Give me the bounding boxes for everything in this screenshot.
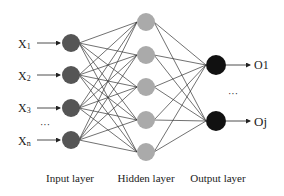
input-label-2: X2 (18, 69, 31, 83)
input-node-1 (62, 34, 80, 52)
hidden-node-1 (137, 13, 155, 31)
input-node-3 (62, 99, 80, 117)
input-node-4 (62, 131, 80, 149)
hidden-node-4 (137, 111, 155, 129)
input-label-1: X1 (18, 37, 31, 51)
neural-network-diagram: X1 X2 X3 ··· Xn O1 ··· Oj Input layer Hi… (0, 0, 284, 196)
input-labels: X1 X2 X3 ··· Xn (18, 37, 50, 148)
input-label-3: X3 (18, 101, 31, 115)
output-layer-label: Output layer (190, 172, 246, 184)
input-label-n: Xn (18, 134, 31, 148)
output-label-j: Oj (254, 114, 267, 129)
hidden-node-5 (137, 143, 155, 161)
hidden-layer-label: Hidden layer (117, 172, 174, 184)
output-label-1: O1 (254, 58, 269, 72)
hidden-node-2 (137, 46, 155, 64)
output-ellipsis: ··· (228, 88, 238, 99)
input-ellipsis: ··· (40, 119, 50, 130)
input-node-2 (62, 66, 80, 84)
hidden-node-3 (137, 78, 155, 96)
output-node-1 (206, 55, 226, 75)
input-layer-label: Input layer (46, 172, 94, 184)
output-node-2 (206, 111, 226, 131)
